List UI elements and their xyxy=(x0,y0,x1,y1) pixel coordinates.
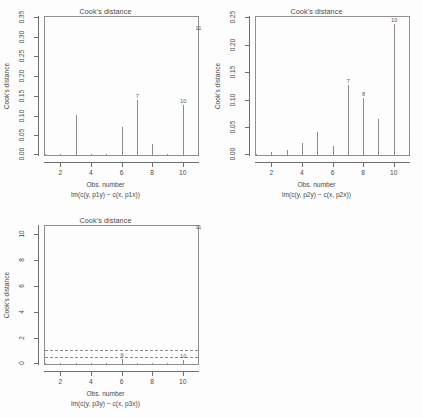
data-spike xyxy=(271,152,272,155)
y-tick-label: 0.00 xyxy=(221,154,243,155)
y-tick xyxy=(245,72,249,73)
y-tick xyxy=(34,286,38,287)
y-tick xyxy=(245,127,249,128)
series-area-0: 11710 xyxy=(45,17,198,155)
x-tick xyxy=(363,163,364,167)
x-tick-label: 4 xyxy=(89,169,93,176)
y-tick xyxy=(34,312,38,313)
x-tick-label: 10 xyxy=(179,169,186,176)
x-axis-sublabel: lm(c(y, p2y) ~ c(x, p2x)) xyxy=(211,191,422,198)
point-label: 10 xyxy=(180,98,186,104)
plot-panel-bottom-right-empty xyxy=(211,209,422,418)
y-tick xyxy=(34,135,38,136)
plot-region: 11610 xyxy=(44,225,199,365)
y-tick-label: 0.05 xyxy=(221,127,243,128)
x-tick-label: 6 xyxy=(120,169,124,176)
plot-region: 1078 xyxy=(255,16,410,156)
point-label: 11 xyxy=(196,224,202,230)
cutoff-line xyxy=(45,350,198,351)
data-spike xyxy=(106,154,107,155)
x-tick xyxy=(152,372,153,376)
data-spike xyxy=(183,360,184,364)
point-label: 8 xyxy=(362,91,365,97)
y-tick xyxy=(34,56,38,57)
y-tick xyxy=(34,260,38,261)
y-tick-label: 0.15 xyxy=(221,72,243,73)
y-tick-label: 10 xyxy=(10,234,32,235)
x-tick-label: 8 xyxy=(361,169,365,176)
y-tick-label: 0.35 xyxy=(10,17,32,18)
y-axis-label: Cook's distance xyxy=(3,63,10,109)
y-tick xyxy=(245,154,249,155)
x-axis-sublabel: lm(c(y, p1y) ~ c(x, p1x)) xyxy=(0,191,211,198)
y-axis-line xyxy=(38,225,39,365)
plot-title: Cook's distance xyxy=(211,7,422,16)
y-tick xyxy=(245,100,249,101)
data-spike xyxy=(60,154,61,155)
series-area-1: 1078 xyxy=(256,17,409,155)
data-spike xyxy=(76,115,77,155)
x-tick-label: 4 xyxy=(300,169,304,176)
y-tick-label: 0 xyxy=(10,363,32,364)
y-tick xyxy=(34,116,38,117)
data-spike xyxy=(317,132,318,155)
data-spike xyxy=(409,134,410,155)
y-axis-line xyxy=(249,16,250,156)
plot-region: 11710 xyxy=(44,16,199,156)
y-tick xyxy=(34,234,38,235)
data-spike xyxy=(302,143,303,155)
data-spike xyxy=(152,144,153,155)
plot-panel-top-right: Cook's distance Cook's distance 1078 0.0… xyxy=(211,0,422,209)
y-tick-label: 0.10 xyxy=(221,100,243,101)
plot-panel-bottom-left: Cook's distance Cook's distance 11610 02… xyxy=(0,209,211,418)
data-spike xyxy=(122,127,123,155)
x-axis-sublabel: lm(c(y, p3y) ~ c(x, p3x)) xyxy=(0,400,211,407)
x-tick xyxy=(271,163,272,167)
y-tick xyxy=(34,37,38,38)
data-spike xyxy=(91,154,92,155)
plot-panel-top-left: Cook's distance Cook's distance 11710 0.… xyxy=(0,0,211,209)
plot-title: Cook's distance xyxy=(0,7,211,16)
data-spike xyxy=(137,100,138,155)
y-tick-label: 8 xyxy=(10,260,32,261)
y-tick xyxy=(34,17,38,18)
x-tick-label: 4 xyxy=(89,378,93,385)
x-tick xyxy=(333,163,334,167)
x-tick xyxy=(183,372,184,376)
series-area-2: 11610 xyxy=(45,226,198,364)
y-tick xyxy=(34,154,38,155)
data-spike xyxy=(122,359,123,364)
data-spike xyxy=(45,363,46,364)
data-spike xyxy=(198,231,199,364)
y-tick xyxy=(34,96,38,97)
y-axis-label: Cook's distance xyxy=(3,272,10,318)
y-tick-label: 4 xyxy=(10,312,32,313)
x-tick xyxy=(152,163,153,167)
y-tick-label: 0.25 xyxy=(10,56,32,57)
x-tick xyxy=(122,372,123,376)
data-spike xyxy=(76,363,77,364)
data-spike xyxy=(137,363,138,364)
x-tick-label: 6 xyxy=(331,169,335,176)
y-tick-label: 6 xyxy=(10,286,32,287)
point-label: 7 xyxy=(136,93,139,99)
x-tick xyxy=(302,163,303,167)
data-spike xyxy=(167,363,168,364)
data-spike xyxy=(363,98,364,155)
data-spike xyxy=(91,363,92,364)
y-tick-label: 0.20 xyxy=(10,76,32,77)
point-label: 7 xyxy=(347,78,350,84)
y-tick-label: 0.10 xyxy=(10,116,32,117)
y-tick-label: 0.00 xyxy=(10,154,32,155)
x-tick-label: 8 xyxy=(150,378,154,385)
point-label: 10 xyxy=(180,353,186,359)
x-tick-label: 10 xyxy=(179,378,186,385)
x-tick-label: 2 xyxy=(269,169,273,176)
data-spike xyxy=(333,146,334,155)
x-tick xyxy=(60,163,61,167)
x-tick xyxy=(394,163,395,167)
y-axis-line xyxy=(38,16,39,156)
data-spike xyxy=(256,154,257,155)
y-tick xyxy=(245,45,249,46)
x-axis-label: Obs. number xyxy=(0,390,211,397)
